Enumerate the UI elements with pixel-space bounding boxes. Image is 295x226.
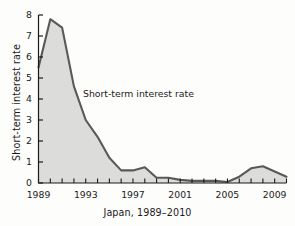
y-tick-label: 3 — [16, 114, 32, 125]
x-axis-caption: Japan, 1989–2010 — [0, 207, 295, 218]
y-tick-label: 7 — [16, 30, 32, 41]
x-tick-label: 2009 — [258, 189, 292, 200]
chart-figure: Short-term interest rate Japan, 1989–201… — [0, 0, 295, 226]
x-tick-label: 1993 — [69, 189, 103, 200]
y-tick-label: 5 — [16, 72, 32, 83]
y-tick-label: 0 — [16, 177, 32, 188]
x-tick-label: 1989 — [22, 189, 56, 200]
y-tick-label: 1 — [16, 156, 32, 167]
x-tick-label: 2001 — [163, 189, 197, 200]
y-tick-label: 4 — [16, 93, 32, 104]
series-annotation-label: Short-term interest rate — [83, 88, 194, 99]
y-tick-label: 8 — [16, 9, 32, 20]
area-fill — [39, 19, 287, 183]
x-tick-label: 1997 — [116, 189, 150, 200]
y-tick-label: 6 — [16, 51, 32, 62]
x-tick-label: 2005 — [210, 189, 244, 200]
y-tick-label: 2 — [16, 135, 32, 146]
